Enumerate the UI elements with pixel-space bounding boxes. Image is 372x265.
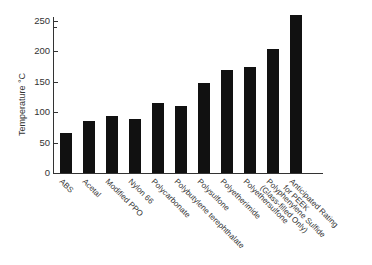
bar xyxy=(267,49,279,173)
y-tick-label: 0 xyxy=(20,168,50,178)
bar xyxy=(60,133,72,173)
y-tick-label: 50 xyxy=(20,138,50,148)
x-axis-line xyxy=(53,173,323,174)
y-tick xyxy=(53,173,58,174)
y-tick xyxy=(53,51,58,52)
y-tick xyxy=(53,21,58,22)
y-tick xyxy=(53,143,58,144)
x-tick-label: Polyetherimide xyxy=(219,177,263,221)
bar xyxy=(106,116,118,173)
y-minor-tick xyxy=(53,27,57,28)
y-tick-label: 200 xyxy=(20,46,50,56)
y-axis-line xyxy=(53,17,54,174)
bar xyxy=(152,103,164,173)
y-tick xyxy=(53,112,58,113)
y-tick-label: 150 xyxy=(20,77,50,87)
bar xyxy=(83,121,95,173)
bar xyxy=(290,15,302,173)
x-tick-label: Acetal xyxy=(81,177,103,199)
y-tick-label: 100 xyxy=(20,107,50,117)
bar xyxy=(221,70,233,173)
bar-chart: Temperature °C 050100150200250 ABSAcetal… xyxy=(0,0,372,265)
bar xyxy=(175,106,187,173)
bar xyxy=(198,83,210,173)
y-tick-label: 250 xyxy=(20,16,50,26)
bar xyxy=(244,67,256,173)
bar xyxy=(129,119,141,173)
y-tick xyxy=(53,82,58,83)
x-tick-label: ABS xyxy=(58,177,76,195)
